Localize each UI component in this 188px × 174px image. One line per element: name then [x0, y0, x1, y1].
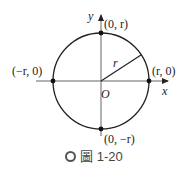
- right-point-label: (r, 0): [152, 64, 176, 78]
- radius-line: [101, 55, 141, 81]
- top-point-label: (0, r): [104, 17, 128, 31]
- figure-number: 1-20: [97, 149, 123, 164]
- origin-label: O: [101, 87, 110, 101]
- point-left: [51, 79, 56, 84]
- point-right: [147, 79, 152, 84]
- point-bottom: [99, 127, 104, 132]
- bottom-point-label: (0, −r): [104, 132, 135, 146]
- point-top: [99, 31, 104, 36]
- figure-marker-icon: [65, 151, 76, 162]
- figure-word: 圖: [80, 149, 93, 164]
- figure-caption: 圖 1-20: [0, 146, 188, 165]
- radius-label: r: [113, 56, 118, 70]
- y-axis-label: y: [87, 9, 94, 23]
- x-axis-label: x: [161, 84, 168, 98]
- left-point-label: (−r, 0): [12, 64, 42, 78]
